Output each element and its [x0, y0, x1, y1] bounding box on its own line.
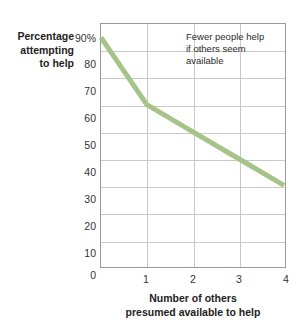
chart-annotation: Fewer people help if others seem availab…	[186, 31, 290, 67]
y-axis-title: Percentage attempting to help	[2, 30, 74, 71]
y-tick-label-0: 0	[66, 270, 96, 281]
y-tick-label-90: 90%	[66, 33, 96, 44]
y-tick-label-30: 30	[66, 194, 96, 205]
x-tick-label-4: 4	[276, 274, 296, 285]
x-axis-title: Number of others presumed available to h…	[100, 292, 286, 319]
x-tick-label-3: 3	[229, 274, 249, 285]
y-tick-label-40: 40	[66, 167, 96, 178]
y-tick-label-60: 60	[66, 113, 96, 124]
y-tick-label-70: 70	[66, 86, 96, 97]
y-tick-label-10: 10	[66, 248, 96, 259]
x-tick-label-2: 2	[183, 274, 203, 285]
y-tick-label-20: 20	[66, 221, 96, 232]
line-chart-figure: Percentage attempting to help 90% 80 70 …	[0, 0, 303, 323]
y-tick-label-80: 80	[66, 59, 96, 70]
x-tick-label-1: 1	[136, 274, 156, 285]
y-tick-label-50: 50	[66, 140, 96, 151]
